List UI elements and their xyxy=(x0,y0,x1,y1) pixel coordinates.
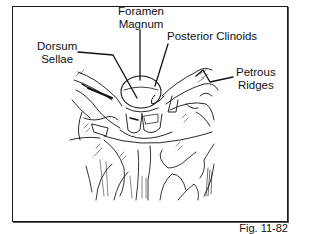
label-line: Sellae xyxy=(37,53,77,66)
leader-petrous-ridges xyxy=(196,70,233,82)
leader-dorsum-sellae xyxy=(78,52,137,98)
label-line: Dorsum xyxy=(37,40,77,53)
label-line: Foramen xyxy=(118,5,164,18)
leader-posterior-clinoids xyxy=(155,44,168,86)
figure-caption: Fig. 11-82 xyxy=(239,222,288,234)
label-line: Magnum xyxy=(118,18,164,31)
label-line: Posterior Clinoids xyxy=(167,30,257,43)
label-posterior-clinoids: Posterior Clinoids xyxy=(167,30,257,43)
label-petrous-ridges: Petrous Ridges xyxy=(236,66,276,92)
label-line: Ridges xyxy=(236,79,276,92)
label-dorsum-sellae: Dorsum Sellae xyxy=(37,40,77,66)
label-foramen-magnum: Foramen Magnum xyxy=(118,5,164,31)
label-line: Petrous xyxy=(236,66,276,79)
